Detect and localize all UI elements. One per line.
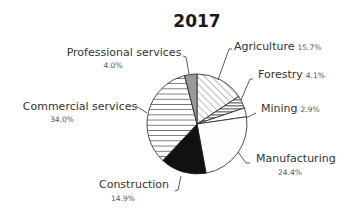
leader-agriculture xyxy=(218,49,232,80)
value-manufacturing: 24.4% xyxy=(278,168,302,177)
leader-forestry xyxy=(241,79,253,100)
pie-chart: 2017 Agriculture15.7% Forestry4.1% Minin… xyxy=(0,0,344,211)
label-agriculture: Agriculture15.7% xyxy=(234,40,321,53)
pie-slices xyxy=(147,74,247,174)
label-construction: Construction xyxy=(99,178,169,191)
value-commercial-services: 34.0% xyxy=(50,115,74,124)
leader-mining xyxy=(246,113,256,118)
leader-commercial-services xyxy=(136,106,147,113)
chart-title: 2017 xyxy=(173,11,220,31)
label-forestry: Forestry4.1% xyxy=(258,68,325,81)
label-mining: Mining2.9% xyxy=(261,102,320,115)
label-manufacturing: Manufacturing xyxy=(256,152,336,165)
leader-construction xyxy=(175,176,181,191)
value-construction: 14.9% xyxy=(111,194,135,203)
leader-professional-services xyxy=(183,56,189,74)
label-commercial-services: Commercial services xyxy=(23,100,138,113)
value-professional-services: 4.0% xyxy=(103,61,122,70)
label-professional-services: Professional services xyxy=(67,46,182,59)
leader-manufacturing xyxy=(238,152,250,163)
